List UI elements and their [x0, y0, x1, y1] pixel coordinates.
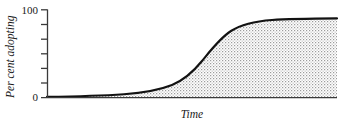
chart-figure: 100 0 Per cent adopting Time: [0, 0, 338, 125]
y-axis-title: Per cent adopting: [4, 15, 17, 99]
y-axis-ticks: [41, 10, 48, 83]
x-axis-title: Time: [181, 108, 203, 120]
curve-fill-area: [47, 18, 337, 98]
diffusion-s-curve-chart: 100 0 Per cent adopting Time: [0, 0, 338, 125]
y-axis-top-tick-label: 100: [22, 4, 39, 16]
y-axis-bottom-tick-label: 0: [33, 91, 39, 103]
